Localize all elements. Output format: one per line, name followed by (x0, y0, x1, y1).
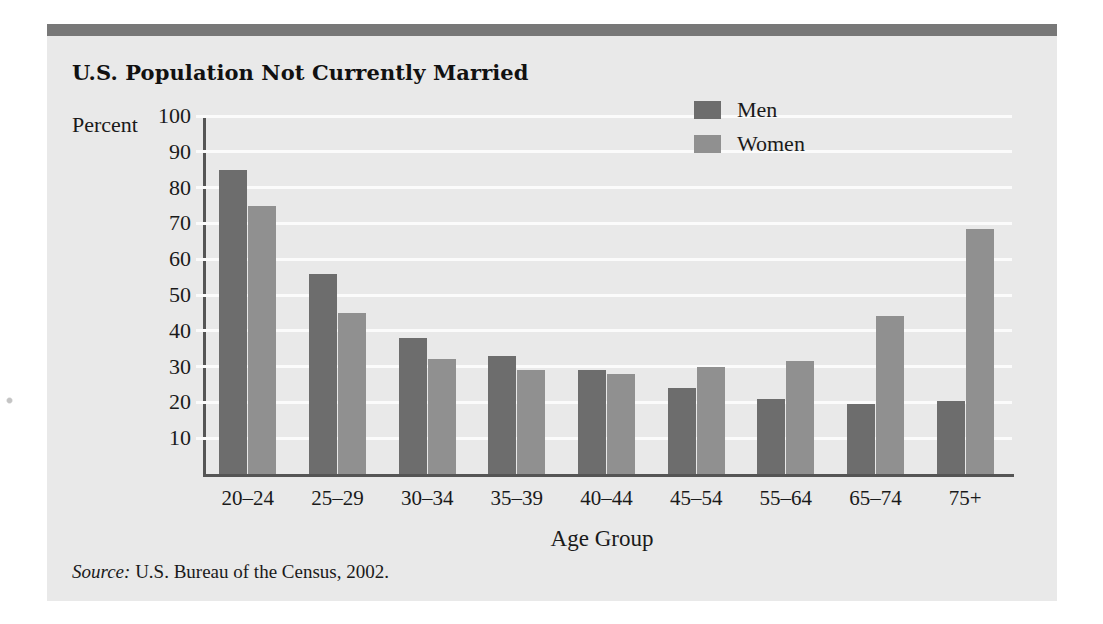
y-tick-label: 80 (169, 177, 191, 199)
figure-panel: U.S. Population Not Currently Married Pe… (47, 24, 1057, 601)
bar-women (338, 313, 366, 474)
bar-group: 25–29 (309, 116, 366, 474)
legend-item: Women (694, 127, 805, 161)
legend-item: Men (694, 93, 805, 127)
bar-women (786, 361, 814, 474)
bar-men (219, 170, 247, 474)
plot-area: 102030405060708090100 20–2425–2930–3435–… (205, 116, 1012, 474)
y-tick-label: 90 (169, 141, 191, 163)
bar-men (847, 404, 875, 474)
bar-men (488, 356, 516, 474)
legend-label: Men (737, 97, 777, 123)
bar-group: 65–74 (847, 116, 904, 474)
y-tick-mark (196, 294, 205, 297)
bar-women (876, 316, 904, 474)
bar-women (428, 359, 456, 474)
bar-group: 35–39 (488, 116, 545, 474)
y-tick-mark (196, 437, 205, 440)
x-tick-label: 30–34 (401, 486, 454, 511)
x-tick-label: 40–44 (580, 486, 633, 511)
figure-top-rule (47, 24, 1057, 36)
bar-group: 55–64 (757, 116, 814, 474)
bar-women (966, 229, 994, 474)
bar-men (399, 338, 427, 474)
bar-women (607, 374, 635, 474)
y-tick-mark (196, 401, 205, 404)
y-tick-label: 40 (169, 320, 191, 342)
bar-group: 45–54 (668, 116, 725, 474)
chart-legend: MenWomen (694, 93, 805, 161)
bar-men (668, 388, 696, 474)
bar-group: 30–34 (399, 116, 456, 474)
y-tick-mark (196, 115, 205, 118)
y-tick-mark (196, 329, 205, 332)
y-tick-label: 20 (169, 391, 191, 413)
x-tick-label: 65–74 (849, 486, 902, 511)
y-axis-title: Percent (72, 112, 138, 138)
x-tick-label: 45–54 (670, 486, 723, 511)
y-tick-label: 30 (169, 356, 191, 378)
y-tick-mark (196, 365, 205, 368)
x-tick-label: 35–39 (491, 486, 544, 511)
x-tick-label: 20–24 (222, 486, 275, 511)
bar-group: 75+ (937, 116, 994, 474)
bar-men (937, 401, 965, 474)
bar-men (757, 399, 785, 474)
y-tick-mark (196, 186, 205, 189)
y-tick-label: 70 (169, 212, 191, 234)
bar-women (697, 367, 725, 474)
legend-label: Women (737, 131, 805, 157)
y-tick-mark (196, 222, 205, 225)
legend-swatch-icon (694, 135, 721, 153)
y-tick-label: 60 (169, 248, 191, 270)
source-note: Source: U.S. Bureau of the Census, 2002. (72, 561, 389, 583)
bar-women (248, 206, 276, 475)
source-text: U.S. Bureau of the Census, 2002. (130, 561, 389, 582)
x-axis-title-text: Age Group (551, 526, 654, 551)
bar-men (578, 370, 606, 474)
page-margin-artifact (6, 396, 13, 405)
figure-inner: U.S. Population Not Currently Married Pe… (47, 36, 1057, 601)
bar-group: 40–44 (578, 116, 635, 474)
y-tick-mark (196, 258, 205, 261)
source-keyword: Source: (72, 561, 130, 582)
y-tick-label: 10 (169, 427, 191, 449)
y-tick-label: 100 (158, 105, 191, 127)
x-tick-label: 75+ (949, 486, 982, 511)
y-tick-label: 50 (169, 284, 191, 306)
legend-swatch-icon (694, 101, 721, 119)
bar-men (309, 274, 337, 474)
x-axis-title: Age Group (47, 526, 1057, 552)
x-tick-label: 25–29 (311, 486, 364, 511)
bar-group: 20–24 (219, 116, 276, 474)
x-tick-label: 55–64 (760, 486, 813, 511)
x-axis-line (203, 474, 1014, 477)
bar-women (517, 370, 545, 474)
y-tick-mark (196, 150, 205, 153)
chart-title: U.S. Population Not Currently Married (72, 60, 529, 85)
